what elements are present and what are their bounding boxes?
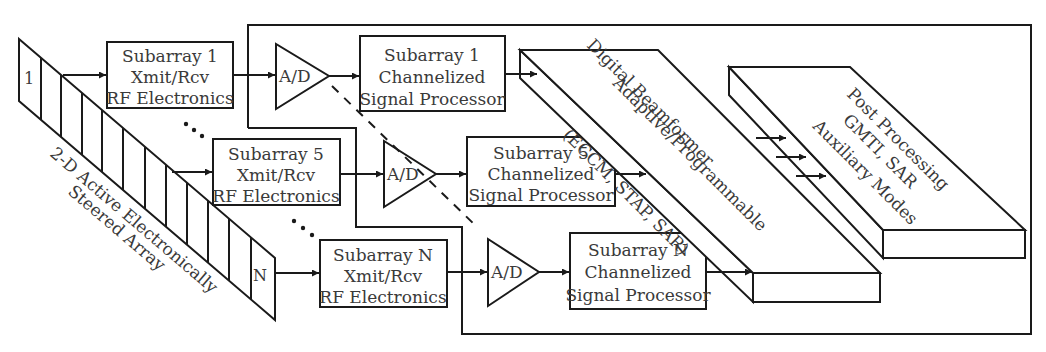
sp5-line2: Channelized [488,164,595,184]
rf-module-1: Subarray 1 Xmit/Rcv RF Electronics [106,42,233,108]
adN-label: A/D [490,262,523,282]
phased-array-block-diagram: 1 N 2-D Active Electronically Steered Ar… [0,0,1046,352]
ellipsis-dots-upper [184,122,204,138]
array-element-last-label: N [253,266,267,285]
rf-module-N: Subarray N Xmit/Rcv RF Electronics [319,240,447,307]
rf5-line2: Xmit/Rcv [237,165,316,185]
ad-converter-1: A/D [276,44,329,109]
rfN-line3: RF Electronics [319,287,446,307]
rf1-line2: Xmit/Rcv [131,67,210,87]
ellipsis-dots-lower [292,219,314,237]
rf-module-5: Subarray 5 Xmit/Rcv RF Electronics [212,139,340,206]
spN-line2: Channelized [585,262,692,282]
ad5-label: A/D [386,164,419,184]
rf5-line1: Subarray 5 [228,144,324,164]
sp1-line3: Signal Processor [359,89,505,109]
rf1-line3: RF Electronics [106,88,233,108]
signal-processor-1: Subarray 1 Channelized Signal Processor [359,36,505,111]
sp1-line1: Subarray 1 [384,45,480,65]
ad1-label: A/D [278,66,311,86]
rf5-line3: RF Electronics [212,186,339,206]
rfN-line2: Xmit/Rcv [344,266,423,286]
ad-converter-N: A/D [488,239,539,306]
sp5-line3: Signal Processor [468,185,614,205]
ad-converter-5: A/D [384,141,436,207]
spN-line3: Signal Processor [565,285,711,305]
array-element-first-label: 1 [24,69,34,88]
rf1-line1: Subarray 1 [122,46,218,66]
sp1-line2: Channelized [379,67,486,87]
rfN-line1: Subarray N [333,245,433,265]
